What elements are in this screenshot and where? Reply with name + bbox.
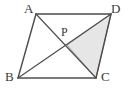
vertex-label-d: D — [111, 2, 120, 15]
edge-ab — [18, 14, 36, 78]
vertex-label-b: B — [5, 70, 14, 83]
vertex-label-c: C — [101, 70, 110, 83]
vertex-label-a: A — [24, 2, 33, 15]
point-label-p: P — [61, 26, 68, 38]
geometry-figure: A D B C P — [0, 0, 132, 95]
